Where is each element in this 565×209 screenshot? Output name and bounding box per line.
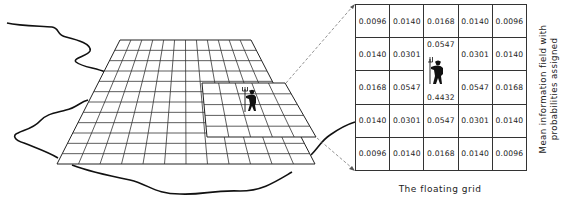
side-label-line1: Mean information field with (538, 25, 549, 154)
grid-cell: 0.0547 (424, 104, 458, 137)
grid-cell: 0.0140 (492, 38, 526, 71)
farmer-with-pitchfork-icon (428, 56, 450, 86)
grid-cell: 0.0168 (424, 137, 458, 170)
side-label-line2: probabilities assigned (548, 25, 559, 154)
grid-cell: 0.0301 (458, 104, 492, 137)
grid-cell-center-merged: 0.0547 0.4432 (424, 38, 458, 104)
grid-cell: 0.0096 (492, 5, 526, 38)
grid-cell: 0.0168 (424, 5, 458, 38)
grid-cell: 0.0140 (356, 104, 390, 137)
grid-row: 0.0096 0.0140 0.0168 0.0140 0.0096 (356, 5, 527, 38)
grid-cell: 0.0096 (356, 137, 390, 170)
connector-top-dashed (286, 6, 353, 83)
grid-cell: 0.0096 (356, 5, 390, 38)
grid-cell: 0.0140 (390, 137, 424, 170)
grid-cell: 0.0140 (390, 5, 424, 38)
grid-cell: 0.0140 (356, 38, 390, 71)
grid-cell: 0.0301 (390, 38, 424, 71)
figure-caption: The floating grid (380, 184, 500, 194)
grid-cell: 0.0096 (492, 137, 526, 170)
grid-cell: 0.0547 (390, 71, 424, 104)
grid-row: 0.0140 0.0301 0.0547 0.4432 0.0301 0.014… (356, 38, 527, 71)
center-top-value: 0.0547 (424, 40, 457, 49)
center-bottom-value: 0.4432 (424, 93, 457, 102)
coastline-top (7, 23, 105, 72)
grid-cell: 0.0168 (356, 71, 390, 104)
floating-grid-overlay (202, 83, 316, 137)
grid-cell: 0.0140 (458, 137, 492, 170)
grid-cell: 0.0140 (492, 104, 526, 137)
grid-cell: 0.0301 (458, 38, 492, 71)
floating-grid-table: 0.0096 0.0140 0.0168 0.0140 0.0096 0.014… (355, 4, 527, 171)
grid-row: 0.0140 0.0301 0.0547 0.0301 0.0140 (356, 104, 527, 137)
connector-bottom-dashed (317, 138, 352, 168)
coastline-bottom (72, 165, 292, 194)
grid-cell: 0.0140 (458, 5, 492, 38)
side-label: Mean information field with probabilitie… (536, 4, 560, 174)
grid-cell: 0.0547 (458, 71, 492, 104)
grid-row: 0.0096 0.0140 0.0168 0.0140 0.0096 (356, 137, 527, 170)
grid-cell: 0.0301 (390, 104, 424, 137)
grid-cell: 0.0168 (492, 71, 526, 104)
